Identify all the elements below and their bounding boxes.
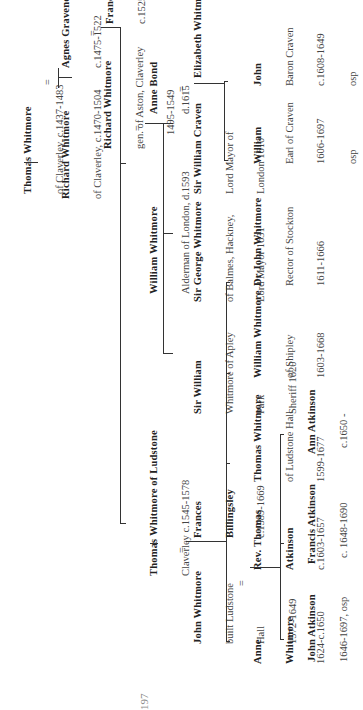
sibling-bar [224, 81, 225, 161]
person-name: Anne Bond [149, 62, 160, 114]
marriage-symbol: = [42, 79, 53, 85]
person-name: Sir William Craven [193, 103, 204, 194]
person-name: Richard Whitmore [61, 89, 72, 199]
person-name: Thomas Whitmore [253, 395, 264, 483]
person-name: John Whitmore [193, 571, 204, 644]
person-details: 1646-1697, osp [339, 594, 350, 662]
descent-line [120, 523, 126, 524]
person-name: Thomas Whitmore of Ludstone [149, 430, 160, 576]
person-name: Frances Barker [105, 0, 116, 24]
person-name: Elizabeth Whitmore [193, 0, 204, 78]
marriage-symbol: = [132, 125, 143, 131]
person-name: Frances [193, 485, 204, 538]
person-details: osp [348, 102, 359, 164]
person-details: 1611-1666 [316, 198, 327, 286]
person-name: John Atkinson [307, 594, 318, 662]
descent-line [226, 282, 230, 283]
descent-line [24, 162, 38, 163]
descent-line [280, 434, 284, 435]
marriage-line [58, 68, 59, 88]
person-details: Baron Craven [285, 27, 296, 86]
descent-line [58, 77, 72, 78]
person-details: of Shipley [285, 291, 296, 379]
descent-line [224, 160, 228, 161]
descent-line [226, 463, 230, 464]
marriage-symbol: = [236, 580, 247, 586]
person-name: William Whitmore [253, 291, 264, 379]
person-details: osp [348, 27, 359, 86]
person-name: Thomas Whitmore [23, 84, 34, 194]
person-name: William Whitmore [149, 171, 160, 294]
person-name: William [253, 102, 264, 164]
person-elizabeth: Elizabeth Whitmore [172, 0, 225, 78]
person-name: John [253, 27, 264, 86]
descent-line [186, 541, 226, 542]
person-name: Agnes Gravenor [61, 0, 72, 68]
person-dr-john: Dr John Whitmore Rector of Stockton 1611… [232, 198, 348, 286]
descent-line [224, 81, 228, 82]
descent-line [194, 83, 224, 84]
person-william-earl-craven: William Earl of Craven 1606-1697 osp [232, 102, 363, 164]
person-name: Dr John Whitmore [253, 198, 264, 286]
marriage-symbol: = [176, 86, 187, 92]
person-john-atkinson: John Atkinson 1646-1697, osp [286, 594, 363, 662]
person-name: Anne [253, 611, 264, 664]
person-name: Francis Atkinson [307, 484, 318, 564]
marriage-symbol: = [87, 30, 98, 36]
person-francis-atkinson: Francis Atkinson c. 1648-1690 [286, 484, 363, 564]
descent-line [101, 27, 120, 28]
person-name: Sir George Whitmore [193, 201, 204, 302]
person-name: Richard Whitmore [103, 47, 114, 149]
person-details: c.1525-1583 [137, 0, 148, 24]
marriage-symbol: = [176, 547, 187, 553]
person-details: c. 1648-1690 [339, 484, 350, 564]
person-frances-barker: Frances Barker c.1525-1583 [84, 0, 168, 24]
descent-line [150, 543, 158, 544]
descent-line [280, 543, 284, 544]
person-details: c.1650 - [339, 389, 350, 454]
person-ann-atkinson: Ann Atkinson c.1650 - [286, 389, 363, 454]
person-details: c.1608-1649 [316, 27, 327, 86]
descent-line [226, 641, 230, 642]
page-number: 197 [138, 694, 150, 710]
sibling-bar [163, 123, 164, 354]
person-details: 1606-1697 [316, 102, 327, 164]
descent-line [280, 639, 284, 640]
sibling-bar [226, 282, 227, 642]
person-william-shipley: William Whitmore of Shipley 1603-1668 [232, 291, 348, 379]
descent-line [145, 123, 163, 124]
person-details: Rector of Stockton [285, 198, 296, 286]
descent-line [120, 163, 126, 164]
sibling-bar [280, 434, 281, 640]
descent-line [226, 373, 230, 374]
person-name: Sir William [193, 332, 204, 414]
descent-line [250, 567, 280, 568]
person-name: Rev. Thomas [253, 510, 264, 570]
sibling-bar [120, 27, 121, 524]
person-details: 1603-1668 [316, 291, 327, 379]
person-john-baron-craven: John Baron Craven c.1608-1649 osp [232, 27, 363, 86]
person-details: Earl of Craven [285, 102, 296, 164]
person-name: Ann Atkinson [307, 389, 318, 454]
